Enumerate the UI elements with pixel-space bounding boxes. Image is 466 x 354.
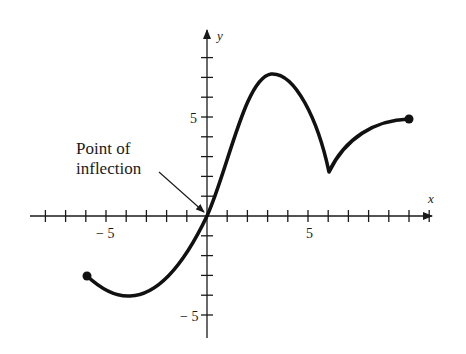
x-axis-label: x <box>427 191 434 206</box>
chart-canvas: x y − 5 5 5 − 5 Point of inflection <box>0 0 466 354</box>
y-axis <box>201 30 213 338</box>
inflection-annotation: Point of inflection <box>76 139 204 212</box>
annotation-text-line1: Point of <box>76 139 131 158</box>
function-curve <box>87 74 409 296</box>
y-tick-label-5: 5 <box>190 111 197 126</box>
annotation-text-line2: inflection <box>76 159 142 178</box>
y-axis-label: y <box>215 28 223 43</box>
y-tick-label-neg5: − 5 <box>180 309 198 324</box>
x-tick-label-neg5: − 5 <box>96 226 114 241</box>
x-axis <box>30 210 432 222</box>
right-endpoint-dot <box>405 115 414 124</box>
annotation-arrow <box>159 172 204 212</box>
left-endpoint-dot <box>83 272 92 281</box>
x-tick-label-5: 5 <box>306 226 313 241</box>
